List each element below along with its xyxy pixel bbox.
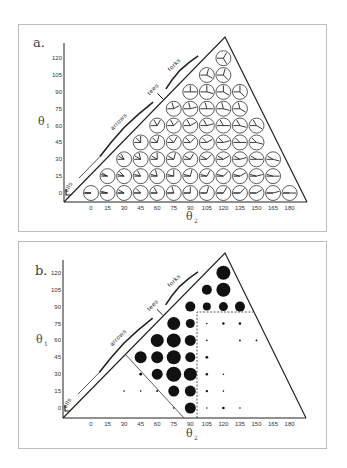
y-axis-sub: 1 xyxy=(44,340,48,347)
frequency-bubble xyxy=(205,356,208,359)
y-tick-label: 60 xyxy=(54,337,61,343)
y-tick-label: 45 xyxy=(54,354,61,360)
frequency-bubble xyxy=(156,390,158,392)
x-tick-label: 45 xyxy=(137,205,144,211)
frequency-bubble xyxy=(219,302,228,311)
junction-glyph xyxy=(266,186,281,201)
x-tick-label: 30 xyxy=(121,205,128,211)
x-tick-label: 120 xyxy=(218,205,229,211)
x-tick-label: 60 xyxy=(154,421,161,427)
frequency-bubble xyxy=(167,350,181,364)
y-axis-sub: 1 xyxy=(46,122,50,129)
frequency-bubble xyxy=(256,340,258,342)
frequency-bubble xyxy=(139,373,142,376)
junction-glyph xyxy=(232,84,247,99)
frequency-bubble xyxy=(203,303,211,311)
y-tick-label: 90 xyxy=(54,304,61,310)
junction-glyph xyxy=(150,118,165,133)
junction-glyph xyxy=(199,152,214,167)
frequency-bubble xyxy=(135,351,147,363)
junction-glyph xyxy=(232,169,247,184)
junction-glyph xyxy=(232,152,247,167)
junction-glyph xyxy=(266,152,281,167)
x-tick-label: 180 xyxy=(285,421,296,427)
x-tick-label: 75 xyxy=(170,205,177,211)
junction-glyph xyxy=(100,169,115,184)
x-tick-label: 15 xyxy=(104,205,111,211)
junction-glyph xyxy=(166,169,181,184)
junction-glyph xyxy=(166,118,181,133)
junction-glyph xyxy=(100,186,115,201)
junction-glyph xyxy=(183,118,198,133)
x-tick-label: 150 xyxy=(251,205,262,211)
frequency-bubble xyxy=(239,340,241,342)
junction-glyph xyxy=(282,186,297,201)
frequency-bubble xyxy=(202,285,212,295)
junction-glyph xyxy=(133,135,148,150)
y-tick-label: 120 xyxy=(51,270,62,276)
frequency-bubble xyxy=(223,390,225,392)
junction-glyph xyxy=(133,152,148,167)
y-tick-label: 105 xyxy=(51,287,62,293)
junction-glyph xyxy=(216,169,231,184)
junction-glyph xyxy=(183,169,198,184)
junction-glyph xyxy=(166,186,181,201)
junction-glyph xyxy=(183,186,198,201)
x-tick-label: 135 xyxy=(235,205,246,211)
junction-glyph xyxy=(133,169,148,184)
panel-b-label: b. xyxy=(35,263,47,278)
frequency-bubble xyxy=(151,351,163,363)
junction-glyph xyxy=(183,152,198,167)
frequency-bubble xyxy=(206,407,208,409)
frequency-bubble xyxy=(185,302,195,312)
frequency-bubble xyxy=(185,403,196,414)
junction-glyph xyxy=(216,152,231,167)
frequency-bubble xyxy=(140,390,142,392)
junction-glyph xyxy=(183,101,198,116)
x-tick-label: 165 xyxy=(268,205,279,211)
x-tick-label: 90 xyxy=(187,205,194,211)
junction-glyph xyxy=(199,169,214,184)
junction-glyph xyxy=(199,84,214,99)
y-tick-label: 60 xyxy=(55,123,62,129)
junction-glyph xyxy=(216,186,231,201)
y-tick-label: 15 xyxy=(55,173,62,179)
frequency-bubble xyxy=(222,322,224,324)
frequency-bubble xyxy=(123,390,125,392)
y-tick-label: 30 xyxy=(55,156,62,162)
junction-glyph xyxy=(183,135,198,150)
junction-glyph xyxy=(117,152,132,167)
y-tick-label: 30 xyxy=(54,371,61,377)
junction-glyph xyxy=(166,135,181,150)
y-tick-label: 15 xyxy=(54,388,61,394)
frequency-bubble xyxy=(206,373,208,375)
frequency-bubble xyxy=(206,340,208,342)
x-axis-title: θ xyxy=(186,210,193,223)
x-tick-label: 45 xyxy=(137,421,144,427)
junction-glyph xyxy=(150,169,165,184)
junction-glyph xyxy=(84,186,99,201)
x-tick-label: 150 xyxy=(251,421,262,427)
junction-glyph xyxy=(232,135,247,150)
x-tick-label: 60 xyxy=(154,205,161,211)
y-tick-label: 105 xyxy=(52,72,63,78)
junction-glyph xyxy=(249,186,264,201)
x-axis-sub: 2 xyxy=(194,434,198,441)
junction-glyph xyxy=(232,118,247,133)
y-tick-label: 75 xyxy=(54,321,61,327)
x-axis-title: θ xyxy=(186,427,193,440)
junction-glyph xyxy=(216,101,231,116)
junction-glyph xyxy=(216,135,231,150)
frequency-bubble xyxy=(173,407,175,409)
x-tick-label: 90 xyxy=(187,421,194,427)
frequency-bubble xyxy=(222,407,225,410)
figure: a. θ 1 θ 2 0153045607590105120 015304560… xyxy=(0,0,347,468)
panel-b: b. θ 1 θ 2 0153045607590105120 015304560… xyxy=(19,242,327,449)
frequency-bubble xyxy=(216,266,230,280)
frequency-bubble xyxy=(166,367,181,382)
frequency-bubble xyxy=(223,373,225,375)
junction-glyph xyxy=(249,169,264,184)
frequency-bubble xyxy=(151,334,164,347)
junction-glyph xyxy=(232,101,247,116)
y-tick-label: 45 xyxy=(55,139,62,145)
